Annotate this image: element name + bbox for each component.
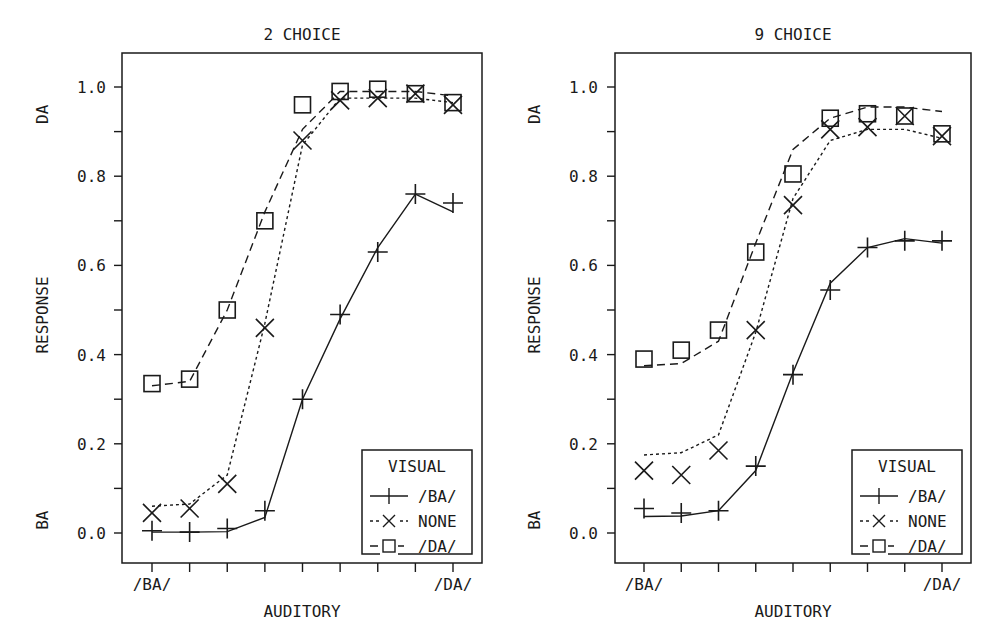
- data-marker-plus: [932, 231, 952, 251]
- data-marker-x: [218, 475, 236, 493]
- data-marker-x: [710, 441, 728, 459]
- data-marker-square: [934, 126, 950, 142]
- y-tick-label: 1.0: [569, 78, 598, 97]
- data-marker-x: [181, 499, 199, 517]
- data-marker-plus: [217, 519, 237, 539]
- fit-line: [152, 98, 453, 506]
- series-da: [144, 81, 461, 391]
- data-marker-x: [635, 462, 653, 480]
- legend-label: NONE: [908, 512, 947, 531]
- y-tick-label: 0.2: [569, 435, 598, 454]
- data-marker-square: [785, 166, 801, 182]
- x-tick-label-first: /BA/: [133, 575, 172, 594]
- data-marker-square: [636, 351, 652, 367]
- y-axis-bottom-label: BA: [33, 510, 52, 530]
- data-marker-plus: [255, 501, 275, 521]
- series-none: [635, 107, 951, 484]
- chart-title: 2 CHOICE: [263, 25, 340, 44]
- y-tick-label: 0.4: [569, 346, 598, 365]
- data-marker-x: [256, 319, 274, 337]
- y-tick-label: 0.0: [77, 524, 106, 543]
- data-marker-plus: [293, 389, 313, 409]
- legend-label: /BA/: [908, 487, 947, 506]
- data-marker-plus: [405, 184, 425, 204]
- y-tick-label: 0.8: [569, 167, 598, 186]
- legend-title: VISUAL: [388, 457, 446, 476]
- data-marker-plus: [180, 522, 200, 542]
- data-marker-plus: [443, 193, 463, 213]
- y-tick-label: 0.0: [569, 524, 598, 543]
- data-marker-x: [672, 466, 690, 484]
- data-marker-x: [331, 91, 349, 109]
- data-marker-x: [896, 107, 914, 125]
- legend-label: /DA/: [908, 537, 947, 556]
- data-marker-plus: [895, 231, 915, 251]
- y-tick-label: 0.4: [77, 346, 106, 365]
- fit-line: [644, 129, 942, 455]
- data-marker-plus: [330, 304, 350, 324]
- data-marker-plus: [634, 498, 654, 518]
- y-tick-label: 0.2: [77, 435, 106, 454]
- data-marker-square: [711, 322, 727, 338]
- x-tick-label-first: /BA/: [625, 575, 664, 594]
- x-tick-label-last: /DA/: [434, 575, 473, 594]
- x-axis-label: AUDITORY: [754, 602, 831, 621]
- data-marker-square: [370, 81, 386, 97]
- legend-title: VISUAL: [878, 457, 936, 476]
- legend: VISUAL/BA/NONE/DA/: [362, 450, 472, 556]
- figure: 2 CHOICE0.00.20.40.60.81.0/BA//DA/AUDITO…: [0, 0, 993, 644]
- data-marker-x: [859, 118, 877, 136]
- y-axis-top-label: DA: [33, 104, 52, 124]
- y-axis-bottom-label: BA: [525, 510, 544, 530]
- legend: VISUAL/BA/NONE/DA/: [852, 450, 962, 556]
- data-marker-square: [144, 376, 160, 392]
- data-marker-plus: [671, 503, 691, 523]
- legend-label: /DA/: [418, 537, 457, 556]
- chart-panel-2: 9 CHOICE0.00.20.40.60.81.0/BA//DA/AUDITO…: [525, 25, 971, 621]
- data-marker-x: [747, 321, 765, 339]
- data-marker-plus: [746, 456, 766, 476]
- data-marker-square: [295, 97, 311, 113]
- chart-title: 9 CHOICE: [754, 25, 831, 44]
- data-marker-x: [143, 504, 161, 522]
- data-marker-square: [673, 342, 689, 358]
- y-tick-label: 0.8: [77, 167, 106, 186]
- data-marker-plus: [783, 365, 803, 385]
- legend-label: NONE: [418, 512, 457, 531]
- series-da: [636, 106, 950, 367]
- y-tick-label: 0.6: [77, 256, 106, 275]
- fit-line: [644, 107, 942, 366]
- fit-line: [152, 91, 453, 385]
- data-marker-plus: [142, 521, 162, 541]
- x-tick-label-last: /DA/: [923, 575, 962, 594]
- data-marker-square: [182, 371, 198, 387]
- x-axis-label: AUDITORY: [263, 602, 340, 621]
- y-axis-label: RESPONSE: [525, 276, 544, 353]
- y-axis-top-label: DA: [525, 104, 544, 124]
- data-marker-x: [406, 85, 424, 103]
- legend-label: /BA/: [418, 487, 457, 506]
- y-tick-label: 1.0: [77, 78, 106, 97]
- y-tick-label: 0.6: [569, 256, 598, 275]
- data-marker-plus: [820, 280, 840, 300]
- data-marker-plus: [368, 242, 388, 262]
- y-axis-label: RESPONSE: [33, 276, 52, 353]
- chart-panel-1: 2 CHOICE0.00.20.40.60.81.0/BA//DA/AUDITO…: [33, 25, 482, 621]
